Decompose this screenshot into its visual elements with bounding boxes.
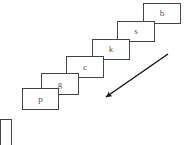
node-label-g: g — [58, 79, 63, 88]
diagram-canvas: b s k c g p — [0, 0, 191, 145]
node-box-p[interactable]: p — [22, 88, 59, 110]
node-label-k: k — [109, 45, 114, 54]
node-label-c: c — [83, 62, 87, 71]
arrow-shaft — [106, 54, 168, 97]
node-label-b: b — [160, 9, 165, 18]
node-label-s: s — [134, 27, 138, 36]
node-label-p: p — [38, 94, 43, 103]
partial-box-bottom-left[interactable] — [0, 119, 12, 145]
